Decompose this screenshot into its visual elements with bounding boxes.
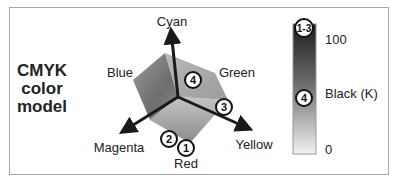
cmyk-cube-diagram: Cyan Blue Green Magenta Yellow Red 4 3 2…	[0, 0, 396, 184]
black-marker-mid: 4	[296, 90, 312, 106]
marker-2: 2	[161, 131, 177, 147]
marker-1: 1	[178, 140, 194, 156]
magenta-label: Magenta	[94, 140, 145, 155]
black-gradient-bar	[293, 24, 316, 154]
blue-label: Blue	[107, 65, 133, 80]
red-label: Red	[174, 156, 198, 171]
black-marker-mid-text: 4	[301, 92, 308, 104]
black-scale-label: Black (K)	[325, 86, 378, 101]
marker-1-text: 1	[183, 142, 189, 154]
cyan-label: Cyan	[157, 14, 187, 29]
black-marker-top-text: 1-3	[297, 23, 312, 34]
black-scale: 1-3 4 100 Black (K) 0	[293, 19, 378, 157]
marker-3-text: 3	[221, 101, 227, 113]
marker-2-text: 2	[166, 133, 172, 145]
black-scale-min: 0	[325, 142, 332, 157]
marker-4-text: 4	[190, 74, 197, 86]
marker-3: 3	[216, 99, 232, 115]
black-marker-top: 1-3	[295, 19, 313, 37]
yellow-label: Yellow	[235, 137, 273, 152]
marker-4: 4	[185, 72, 201, 88]
green-label: Green	[219, 65, 255, 80]
black-scale-max: 100	[325, 32, 347, 47]
